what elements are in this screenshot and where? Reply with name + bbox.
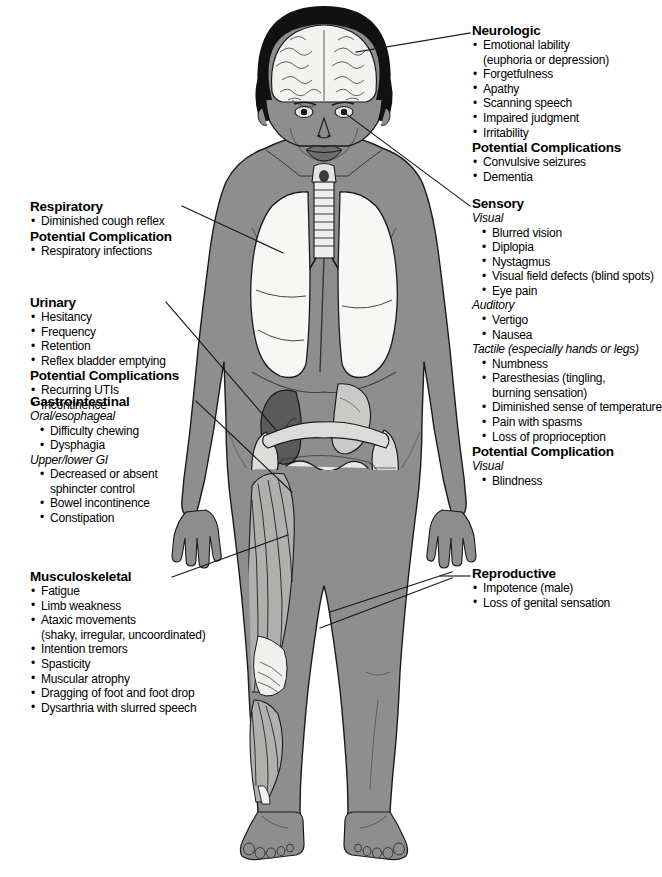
callout-neurologic-title: Neurologic <box>472 23 644 38</box>
callout-neurologic-list: Emotional lability(euphoria or depressio… <box>472 38 644 140</box>
sensory-group-auditory: Auditory VertigoNausea <box>472 298 648 342</box>
list-item: sphincter control <box>39 482 210 497</box>
callout-musculoskeletal: Musculoskeletal FatigueLimb weaknessAtax… <box>30 569 250 715</box>
callout-respiratory-title: Respiratory <box>30 199 200 214</box>
callout-urinary-title: Urinary <box>30 295 200 310</box>
list-item: Dragging of foot and foot drop <box>30 686 250 701</box>
gi-oral-list: Difficulty chewingDysphagia <box>39 424 210 453</box>
list-item: Emotional lability <box>472 38 644 53</box>
list-item: Frequency <box>30 325 200 340</box>
list-item: Impaired judgment <box>472 111 644 126</box>
list-item: Paresthesias (tingling, <box>481 371 648 386</box>
list-item: Diminished sense of temperature <box>481 400 648 415</box>
list-item: (euphoria or depression) <box>472 53 644 68</box>
gi-subhead-upper-lower: Upper/lower GI <box>30 453 210 468</box>
sensory-visual-list: Blurred visionDiplopiaNystagmusVisual fi… <box>481 226 648 299</box>
list-item: Convulsive seizures <box>472 155 644 170</box>
callout-urinary-complications-title: Potential Complications <box>30 368 200 383</box>
list-item: Numbness <box>481 357 648 372</box>
list-item: Dysphagia <box>39 438 210 453</box>
callout-sensory-title: Sensory <box>472 196 648 211</box>
list-item: Difficulty chewing <box>39 424 210 439</box>
list-item: Vertigo <box>481 313 648 328</box>
list-item: Fatigue <box>30 584 250 599</box>
list-item: Pain with spasms <box>481 415 648 430</box>
list-item: Scanning speech <box>472 96 644 111</box>
list-item: Decreased or absent <box>39 467 210 482</box>
list-item: Forgetfulness <box>472 67 644 82</box>
list-item: Nausea <box>481 328 648 343</box>
sensory-tactile-list: NumbnessParesthesias (tingling,burning s… <box>481 357 648 445</box>
callout-sensory-complications-title: Potential Complication <box>472 444 648 459</box>
feet <box>240 812 407 860</box>
callout-neurologic-complications-title: Potential Complications <box>472 140 644 155</box>
list-item: Spasticity <box>30 657 250 672</box>
callout-urinary-list: HesitancyFrequencyRetentionReflex bladde… <box>30 310 200 368</box>
callout-respiratory-complications-title: Potential Complication <box>30 229 200 244</box>
list-item: Retention <box>30 339 200 354</box>
sensory-subhead-visual: Visual <box>472 211 648 226</box>
list-item: (shaky, irregular, uncoordinated) <box>30 628 250 643</box>
list-item: Blindness <box>481 474 648 489</box>
callout-gastrointestinal-title: Gastrointestinal <box>30 394 210 409</box>
callout-musculoskeletal-list: FatigueLimb weaknessAtaxic movements(sha… <box>30 584 250 715</box>
list-item: Blurred vision <box>481 226 648 241</box>
gi-subhead-oral: Oral/esophageal <box>30 409 210 424</box>
list-item: Reflex bladder emptying <box>30 354 200 369</box>
sensory-subhead-tactile: Tactile (especially hands or legs) <box>472 342 648 357</box>
callout-musculoskeletal-title: Musculoskeletal <box>30 569 250 584</box>
list-item: Limb weakness <box>30 599 250 614</box>
list-item: Dysarthria with slurred speech <box>30 701 250 716</box>
list-item: Nystagmus <box>481 255 648 270</box>
hand-left <box>427 510 476 568</box>
list-item: Apathy <box>472 82 644 97</box>
gi-group-upper-lower: Upper/lower GI Decreased or absentsphinc… <box>30 453 210 526</box>
list-item: Eye pain <box>481 284 648 299</box>
list-item: Ataxic movements <box>30 613 250 628</box>
callout-respiratory-complications-list: Respiratory infections <box>30 244 200 259</box>
list-item: Constipation <box>39 511 210 526</box>
callout-reproductive-title: Reproductive <box>472 566 644 581</box>
list-item: Irritability <box>472 126 644 141</box>
head <box>255 6 392 162</box>
list-item: burning sensation) <box>481 386 648 401</box>
list-item: Loss of proprioception <box>481 430 648 445</box>
list-item: Respiratory infections <box>30 244 200 259</box>
callout-neurologic: Neurologic Emotional lability(euphoria o… <box>472 23 644 184</box>
list-item: Visual field defects (blind spots) <box>481 269 648 284</box>
list-item: Diplopia <box>481 240 648 255</box>
sensory-complications-list: Blindness <box>481 474 648 489</box>
list-item: Bowel incontinence <box>39 496 210 511</box>
callout-gastrointestinal: Gastrointestinal Oral/esophageal Difficu… <box>30 394 210 526</box>
gi-upper-lower-list: Decreased or absentsphincter controlBowe… <box>39 467 210 525</box>
list-item: Dementia <box>472 170 644 185</box>
sensory-group-tactile: Tactile (especially hands or legs) Numbn… <box>472 342 648 444</box>
sensory-complications-subhead: Visual <box>472 459 648 474</box>
sensory-subhead-auditory: Auditory <box>472 298 648 313</box>
sensory-group-visual: Visual Blurred visionDiplopiaNystagmusVi… <box>472 211 648 298</box>
list-item: Impotence (male) <box>472 581 644 596</box>
callout-reproductive: Reproductive Impotence (male)Loss of gen… <box>472 566 644 610</box>
sensory-auditory-list: VertigoNausea <box>481 313 648 342</box>
gi-group-oral: Oral/esophageal Difficulty chewingDyspha… <box>30 409 210 453</box>
callout-reproductive-list: Impotence (male)Loss of genital sensatio… <box>472 581 644 610</box>
callout-neurologic-complications-list: Convulsive seizuresDementia <box>472 155 644 184</box>
list-item: Intention tremors <box>30 642 250 657</box>
list-item: Diminished cough reflex <box>30 214 200 229</box>
callout-respiratory-list: Diminished cough reflex <box>30 214 200 229</box>
callout-respiratory: Respiratory Diminished cough reflex Pote… <box>30 199 200 258</box>
list-item: Muscular atrophy <box>30 672 250 687</box>
callout-sensory: Sensory Visual Blurred visionDiplopiaNys… <box>472 196 648 488</box>
list-item: Hesitancy <box>30 310 200 325</box>
list-item: Loss of genital sensation <box>472 596 644 611</box>
